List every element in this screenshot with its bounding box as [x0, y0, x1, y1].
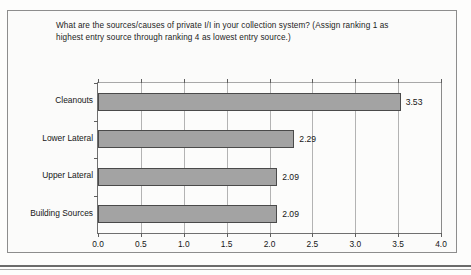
footer-rule-thin	[0, 269, 471, 270]
bar-row: 3.53	[98, 93, 441, 111]
axis-tick-bottom	[441, 233, 442, 237]
value-axis-tick-label: 3.5	[392, 239, 404, 249]
bar-row: 2.09	[98, 168, 441, 186]
category-label: Building Sources	[7, 208, 93, 218]
axis-tick-top	[441, 79, 442, 83]
bar[interactable]	[98, 205, 277, 223]
category-axis-labels: CleanoutsLower LateralUpper LateralBuild…	[8, 82, 93, 234]
value-axis-tick-label: 2.5	[307, 239, 319, 249]
value-axis-tick-label: 1.5	[221, 239, 233, 249]
footer-rule-thick	[0, 265, 471, 267]
axis-tick-bottom	[98, 233, 99, 237]
chart-frame: What are the sources/causes of private I…	[7, 10, 457, 253]
axis-tick-bottom	[184, 233, 185, 237]
value-axis-labels: 0.00.51.01.52.02.53.03.54.0	[97, 239, 442, 253]
category-label: Lower Lateral	[7, 133, 93, 143]
axis-tick-bottom	[355, 233, 356, 237]
axis-tick-bottom	[398, 233, 399, 237]
axis-tick-top	[270, 79, 271, 83]
category-tick	[94, 121, 98, 122]
bar-row: 2.09	[98, 205, 441, 223]
value-axis-tick-label: 2.0	[264, 239, 276, 249]
value-axis-tick-label: 1.0	[178, 239, 190, 249]
category-tick	[94, 196, 98, 197]
bar-value-label: 2.09	[282, 172, 299, 182]
axis-tick-bottom	[227, 233, 228, 237]
chart-title: What are the sources/causes of private I…	[56, 20, 418, 43]
axis-tick-top	[98, 79, 99, 83]
axis-tick-top	[312, 79, 313, 83]
category-label: Upper Lateral	[7, 170, 93, 180]
page-root: What are the sources/causes of private I…	[0, 0, 471, 275]
axis-tick-top	[398, 79, 399, 83]
category-tick	[94, 158, 98, 159]
axis-tick-top	[141, 79, 142, 83]
value-axis-tick-label: 0.0	[92, 239, 104, 249]
value-axis-tick-label: 4.0	[435, 239, 447, 249]
bar[interactable]	[98, 168, 277, 186]
bar[interactable]	[98, 130, 294, 148]
bar-row: 2.29	[98, 130, 441, 148]
category-label: Cleanouts	[7, 95, 93, 105]
axis-tick-top	[184, 79, 185, 83]
value-axis-tick-label: 0.5	[135, 239, 147, 249]
value-axis-tick-label: 3.0	[349, 239, 361, 249]
axis-tick-top	[355, 79, 356, 83]
axis-tick-top	[227, 79, 228, 83]
bar-value-label: 3.53	[406, 97, 423, 107]
axis-tick-bottom	[312, 233, 313, 237]
category-tick	[94, 83, 98, 84]
bar[interactable]	[98, 93, 401, 111]
bar-value-label: 2.29	[299, 134, 316, 144]
axis-tick-bottom	[270, 233, 271, 237]
bar-value-label: 2.09	[282, 209, 299, 219]
axis-tick-bottom	[141, 233, 142, 237]
plot-area: 3.532.292.092.09	[97, 82, 442, 234]
